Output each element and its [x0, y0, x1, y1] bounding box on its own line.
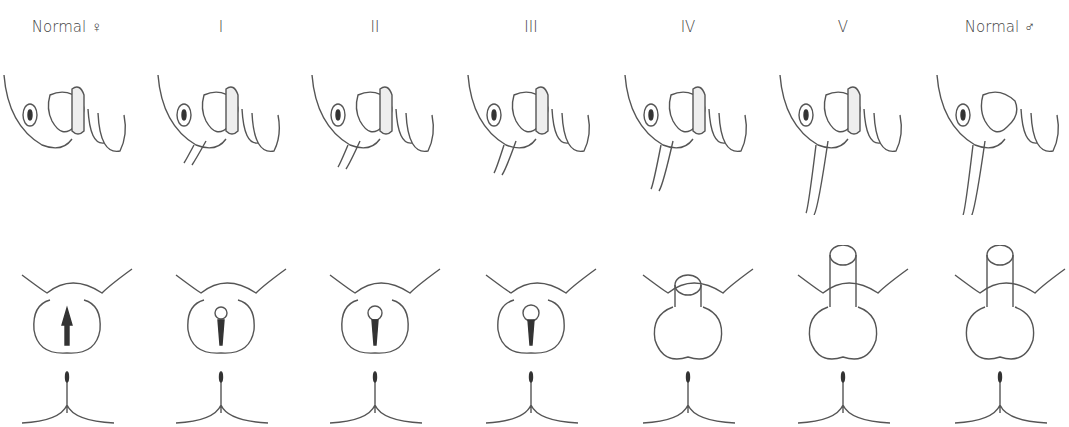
stage-label: I — [146, 18, 296, 36]
stage-column-1: I — [146, 0, 296, 427]
sagittal-illustration — [768, 65, 918, 215]
stage-label: III — [456, 18, 606, 36]
sagittal-illustration — [0, 65, 142, 215]
sagittal-illustration — [613, 65, 763, 215]
sagittal-illustration — [300, 65, 450, 215]
stage-column-6: Normal ♂ — [925, 0, 1069, 427]
external-illustration — [613, 245, 763, 427]
external-illustration — [456, 245, 606, 427]
stage-label: IV — [613, 18, 763, 36]
stage-column-4: IV — [613, 0, 763, 427]
external-illustration — [768, 245, 918, 427]
external-illustration — [146, 245, 296, 427]
sagittal-illustration — [925, 65, 1069, 215]
sagittal-illustration — [146, 65, 296, 215]
stage-label: II — [300, 18, 450, 36]
external-illustration — [0, 245, 142, 427]
stage-label: V — [768, 18, 918, 36]
stage-column-3: III — [456, 0, 606, 427]
sagittal-illustration — [456, 65, 606, 215]
stage-label: Normal ♂ — [925, 18, 1069, 36]
stage-label: Normal ♀ — [0, 18, 142, 36]
stage-column-5: V — [768, 0, 918, 427]
external-illustration — [300, 245, 450, 427]
external-illustration — [925, 245, 1069, 427]
stage-column-0: Normal ♀ — [0, 0, 142, 427]
stage-column-2: II — [300, 0, 450, 427]
